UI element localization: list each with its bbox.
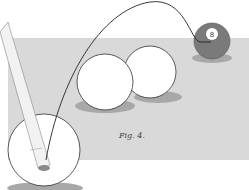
cue-tip: [38, 165, 50, 171]
figure-caption: Fig. 4.: [119, 131, 145, 140]
figure-drawing: 8: [0, 0, 249, 190]
eight-ball-number: 8: [210, 31, 214, 39]
object-ball-1: [77, 54, 133, 110]
billiards-figure: 8 Fig. 4.: [0, 0, 249, 190]
